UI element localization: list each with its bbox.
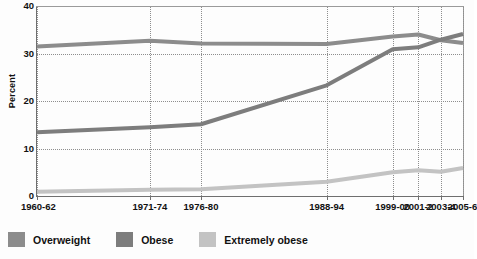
gridline-x-2001-2 xyxy=(418,7,419,196)
gridline-y-30 xyxy=(37,54,464,55)
legend-swatch-icon xyxy=(116,232,133,247)
gridline-x-2005-6 xyxy=(463,7,464,196)
series-line-obese xyxy=(37,34,463,132)
x-tick-mark xyxy=(201,196,202,200)
legend-swatch-icon xyxy=(8,232,25,247)
legend-swatch-icon xyxy=(199,232,216,247)
x-axis-line xyxy=(36,196,464,197)
x-tick-label: 1988-94 xyxy=(309,201,344,212)
x-tick-label: 2005-6 xyxy=(448,201,477,212)
x-tick-mark xyxy=(441,196,442,200)
gridline-x-1960-62 xyxy=(37,7,38,196)
legend-label: Overweight xyxy=(33,234,90,246)
series-line-extremely-obese xyxy=(37,168,463,192)
x-tick-label: 1960-62 xyxy=(21,201,56,212)
x-tick-label: 1976-80 xyxy=(184,201,219,212)
y-tick-label: 40 xyxy=(14,1,34,11)
chart-legend: OverweightObeseExtremely obese xyxy=(8,232,334,247)
x-tick-mark xyxy=(418,196,419,200)
gridline-x-1976-80 xyxy=(201,7,202,196)
gridline-y-10 xyxy=(37,149,464,150)
gridline-y-20 xyxy=(37,101,464,102)
series-line-overweight xyxy=(37,35,463,47)
legend-item-overweight[interactable]: Overweight xyxy=(8,232,90,247)
gridline-x-1999-00 xyxy=(393,7,394,196)
legend-item-obese[interactable]: Obese xyxy=(116,232,173,247)
y-tick-label: 0 xyxy=(14,191,34,201)
x-tick-label: 1971-74 xyxy=(132,201,167,212)
legend-item-extremely-obese[interactable]: Extremely obese xyxy=(199,232,307,247)
x-tick-mark xyxy=(327,196,328,200)
x-tick-mark xyxy=(150,196,151,200)
x-tick-mark xyxy=(463,196,464,200)
plot-border-top xyxy=(36,6,464,7)
y-tick-label: 10 xyxy=(14,144,34,154)
legend-label: Extremely obese xyxy=(224,234,307,246)
y-axis-title: Percent xyxy=(7,61,17,121)
legend-label: Obese xyxy=(141,234,173,246)
gridline-x-1988-94 xyxy=(327,7,328,196)
x-tick-mark xyxy=(393,196,394,200)
y-tick-label: 30 xyxy=(14,49,34,59)
gridline-x-1971-74 xyxy=(150,7,151,196)
gridline-x-2003-4 xyxy=(441,7,442,196)
x-tick-mark xyxy=(37,196,38,200)
y-tick-label: 20 xyxy=(14,96,34,106)
